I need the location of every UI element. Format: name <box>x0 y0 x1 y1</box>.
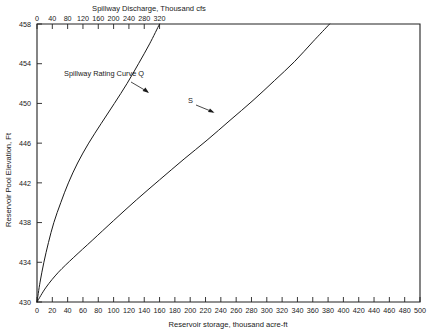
bottom-tick-label: 120 <box>123 306 135 315</box>
bottom-tick-label: 440 <box>368 306 380 315</box>
top-tick-label: 80 <box>64 14 72 23</box>
left-axis-ticks <box>37 24 42 302</box>
left-tick-label: 454 <box>19 59 31 68</box>
bottom-tick-label: 20 <box>48 306 56 315</box>
bottom-tick-label: 500 <box>414 306 426 315</box>
annotation-arrowhead-s <box>208 108 215 112</box>
reservoir-elevation-chart: 04080120160200240280320 0204060801001201… <box>0 0 439 333</box>
bottom-tick-label: 100 <box>108 306 120 315</box>
top-tick-label: 200 <box>108 14 120 23</box>
data-curves <box>37 24 330 302</box>
bottom-tick-label: 180 <box>169 306 181 315</box>
bottom-tick-label: 240 <box>215 306 227 315</box>
bottom-tick-label: 280 <box>245 306 257 315</box>
left-axis-title: Reservoir Pool Elevation, Ft <box>4 132 13 227</box>
left-tick-label: 446 <box>19 139 31 148</box>
bottom-tick-label: 80 <box>94 306 102 315</box>
top-tick-label: 320 <box>154 14 166 23</box>
bottom-tick-label: 320 <box>276 306 288 315</box>
bottom-tick-label: 260 <box>230 306 242 315</box>
bottom-tick-label: 360 <box>307 306 319 315</box>
bottom-tick-label: 0 <box>35 306 39 315</box>
top-axis-ticks <box>37 24 160 29</box>
bottom-tick-label: 340 <box>291 306 303 315</box>
curve-spillway-rating-curve-q <box>37 24 160 302</box>
left-tick-label: 438 <box>19 218 31 227</box>
top-tick-label: 120 <box>77 14 89 23</box>
axis-box <box>37 24 420 302</box>
bottom-tick-label: 480 <box>399 306 411 315</box>
left-tick-label: 450 <box>19 99 31 108</box>
left-axis-tick-labels: 430434438442446450454458 <box>19 20 31 307</box>
annotation-label-s: S <box>188 96 193 105</box>
bottom-tick-label: 200 <box>184 306 196 315</box>
bottom-axis-ticks <box>37 297 420 302</box>
top-axis-title: Spillway Discharge, Thousand cfs <box>92 4 206 13</box>
bottom-axis-tick-labels: 0204060801001201401601802002202402602803… <box>35 306 426 315</box>
chart-figure: 04080120160200240280320 0204060801001201… <box>0 0 439 333</box>
left-tick-label: 430 <box>19 298 31 307</box>
left-tick-label: 434 <box>19 258 31 267</box>
bottom-tick-label: 460 <box>383 306 395 315</box>
top-tick-label: 280 <box>138 14 150 23</box>
annotation-arrowhead-q <box>143 88 149 93</box>
bottom-tick-label: 300 <box>261 306 273 315</box>
bottom-tick-label: 420 <box>353 306 365 315</box>
bottom-axis-title: Reservoir storage, thousand acre-ft <box>168 320 288 329</box>
curve-s <box>37 24 330 302</box>
annotation-storage-curve: S <box>188 96 215 113</box>
top-tick-label: 40 <box>48 14 56 23</box>
top-tick-label: 0 <box>35 14 39 23</box>
bottom-tick-label: 380 <box>322 306 334 315</box>
bottom-tick-label: 60 <box>79 306 87 315</box>
bottom-tick-label: 140 <box>138 306 150 315</box>
plot-frame <box>37 24 420 302</box>
bottom-tick-label: 40 <box>64 306 72 315</box>
annotation-spillway-rating-curve: Spillway Rating Curve Q <box>64 69 149 93</box>
bottom-tick-label: 160 <box>154 306 166 315</box>
annotation-label-q-line1: Spillway Rating Curve Q <box>64 69 144 78</box>
top-tick-label: 240 <box>123 14 135 23</box>
left-tick-label: 442 <box>19 179 31 188</box>
top-axis-tick-labels: 04080120160200240280320 <box>35 14 166 23</box>
top-tick-label: 160 <box>92 14 104 23</box>
bottom-tick-label: 400 <box>337 306 349 315</box>
bottom-tick-label: 220 <box>200 306 212 315</box>
left-tick-label: 458 <box>19 20 31 29</box>
